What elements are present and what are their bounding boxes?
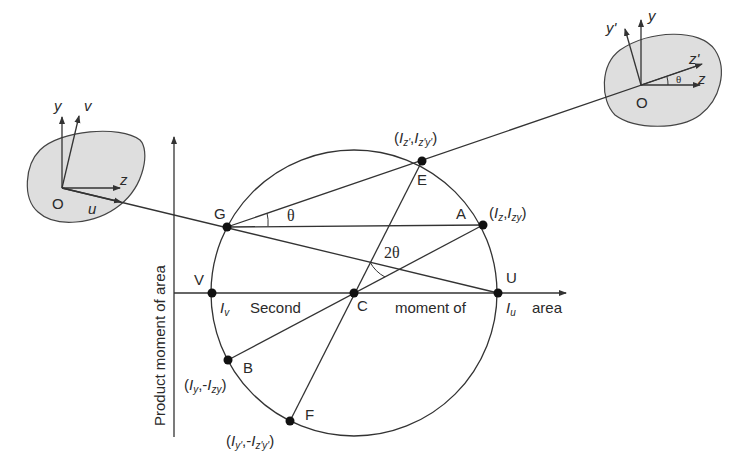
point-U xyxy=(494,289,503,298)
label-C: C xyxy=(357,298,368,313)
point-B xyxy=(224,356,233,365)
right-angle-theta: θ xyxy=(676,74,681,85)
left-label-u: u xyxy=(88,201,96,216)
circle-points xyxy=(208,157,503,426)
coord-E: (Iz',Iz'y') xyxy=(394,130,437,148)
x-axis-label-part3: area xyxy=(532,300,562,315)
coord-F: (Iy',-Iz'y') xyxy=(226,433,274,451)
label-B: B xyxy=(243,360,253,375)
left-label-z: z xyxy=(120,172,128,187)
label-G: G xyxy=(214,206,226,221)
u-line xyxy=(62,188,498,293)
coord-B: (Iy,-Izy) xyxy=(184,377,227,395)
angle-2theta-label: 2θ xyxy=(384,245,400,261)
mohr-circle-diagram xyxy=(0,0,743,468)
left-label-v: v xyxy=(84,98,92,113)
right-origin-label: O xyxy=(636,95,648,110)
left-cross-section xyxy=(27,116,145,222)
point-V xyxy=(208,289,217,298)
right-label-yprime: y' xyxy=(606,20,616,35)
x-axis-label-part2: moment of xyxy=(395,300,466,315)
right-label-zprime: z' xyxy=(689,51,699,66)
coord-A: (Iz,Izy) xyxy=(489,205,527,223)
left-label-y: y xyxy=(54,98,62,113)
label-F: F xyxy=(305,407,314,422)
right-label-y: y xyxy=(648,8,656,23)
label-E: E xyxy=(417,172,427,187)
point-G xyxy=(223,223,232,232)
label-U: U xyxy=(506,270,517,285)
G-A-line xyxy=(227,225,483,227)
point-A xyxy=(479,221,488,230)
zprime-line xyxy=(227,65,700,227)
right-label-z: z xyxy=(698,71,706,86)
point-E xyxy=(418,157,427,166)
point-F xyxy=(286,417,295,426)
axis-value-Iv: Iv xyxy=(220,300,229,318)
x-axis-label-part1: Second xyxy=(250,300,301,315)
label-A: A xyxy=(456,206,466,221)
left-origin-label: O xyxy=(52,196,64,211)
label-V: V xyxy=(194,272,204,287)
axis-value-Iu: Iu xyxy=(506,300,516,318)
angle-theta-label: θ xyxy=(287,208,295,224)
y-axis-label: Product moment of area xyxy=(151,265,168,426)
